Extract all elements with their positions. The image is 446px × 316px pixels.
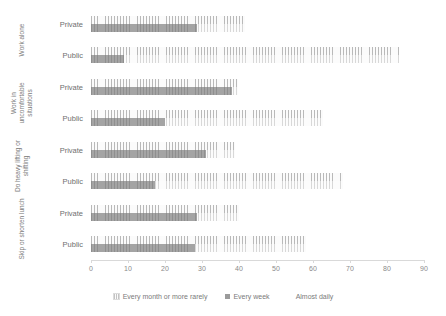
- x-axis-tick: [313, 260, 314, 263]
- bar-row: [91, 181, 424, 189]
- x-axis-tick-label: 30: [198, 265, 206, 272]
- legend-item-almost-daily[interactable]: Almost daily: [288, 293, 334, 300]
- chart-legend: Every month or more rarelyEvery weekAlmo…: [0, 289, 446, 303]
- horizontal-stacked-bar-chart: Work aloneWork in uncomfortable situatio…: [0, 0, 446, 316]
- bar-segment-every-week: [91, 118, 165, 126]
- bar-row: [91, 47, 424, 55]
- bar-segment-every-month-or-more-rarely: [91, 142, 235, 150]
- bar-row: [91, 205, 424, 213]
- bar-row: [91, 24, 424, 32]
- bar-segment-every-month-or-more-rarely: [91, 205, 239, 213]
- bar-segment-every-month-or-more-rarely: [91, 16, 245, 24]
- legend-swatch-icon: [225, 294, 230, 299]
- x-axis-tick-label: 90: [420, 265, 428, 272]
- category-label-public: Public: [63, 51, 83, 60]
- x-axis-tick-label: 70: [346, 265, 354, 272]
- x-axis-tick-label: 50: [272, 265, 280, 272]
- bar-row: [91, 244, 424, 252]
- bar-row: [91, 55, 424, 63]
- bar-segment-every-month-or-more-rarely: [91, 47, 399, 55]
- category-label-private: Private: [60, 145, 83, 154]
- x-axis-tick-label: 40: [235, 265, 243, 272]
- x-axis-tick: [91, 260, 92, 263]
- legend-item-every-week[interactable]: Every week: [225, 293, 269, 300]
- x-axis-tick-label: 20: [161, 265, 169, 272]
- x-axis-tick: [128, 260, 129, 263]
- bar-row: [91, 150, 424, 158]
- bar-segment-every-month-or-more-rarely: [91, 110, 323, 118]
- x-axis-tick-label: 80: [383, 265, 391, 272]
- bar-segment-every-week: [91, 213, 197, 221]
- legend-swatch-icon: [113, 293, 120, 300]
- bar-row: [91, 118, 424, 126]
- bar-row: [91, 79, 424, 87]
- category-label-private: Private: [60, 208, 83, 217]
- category-label-public: Public: [63, 177, 83, 186]
- x-axis-tick: [350, 260, 351, 263]
- bar-segment-every-week: [91, 24, 197, 32]
- legend-item-every-month-or-more-rarely[interactable]: Every month or more rarely: [113, 293, 208, 300]
- x-axis-tick-label: 60: [309, 265, 317, 272]
- legend-label: Every month or more rarely: [123, 293, 208, 300]
- bar-row: [91, 236, 424, 244]
- plot-area: [91, 8, 424, 260]
- category-label-column: PrivatePublicPrivatePublicPrivatePublicP…: [40, 8, 89, 260]
- bar-row: [91, 142, 424, 150]
- bar-row: [91, 87, 424, 95]
- bar-row: [91, 110, 424, 118]
- bar-segment-every-week: [91, 150, 206, 158]
- x-axis-tick-label: 0: [89, 265, 93, 272]
- category-label-public: Public: [63, 114, 83, 123]
- bar-segment-every-week: [91, 244, 195, 252]
- x-axis-tick: [239, 260, 240, 263]
- category-label-private: Private: [60, 19, 83, 28]
- bar-segment-every-month-or-more-rarely: [91, 173, 343, 181]
- category-label-public: Public: [63, 240, 83, 249]
- x-axis-tick: [276, 260, 277, 263]
- group-label-column: Work aloneWork in uncomfortable situatio…: [0, 8, 40, 260]
- x-axis-tick: [387, 260, 388, 263]
- bar-segment-every-week: [91, 55, 124, 63]
- x-axis-tick-label: 10: [124, 265, 132, 272]
- bar-segment-every-week: [91, 181, 155, 189]
- bar-segment-every-month-or-more-rarely: [91, 236, 306, 244]
- category-label-private: Private: [60, 82, 83, 91]
- legend-label: Every week: [233, 293, 269, 300]
- x-axis-tick: [424, 260, 425, 263]
- bar-row: [91, 173, 424, 181]
- bar-segment-every-month-or-more-rarely: [91, 79, 238, 87]
- x-axis-line: [91, 260, 425, 261]
- legend-swatch-icon: [288, 294, 293, 299]
- x-axis-tick: [165, 260, 166, 263]
- legend-label: Almost daily: [296, 293, 334, 300]
- x-axis-tick: [202, 260, 203, 263]
- bar-segment-every-week: [91, 87, 232, 95]
- bar-row: [91, 213, 424, 221]
- bar-row: [91, 16, 424, 24]
- bar-segment-every-month-or-more-rarely: [91, 55, 399, 63]
